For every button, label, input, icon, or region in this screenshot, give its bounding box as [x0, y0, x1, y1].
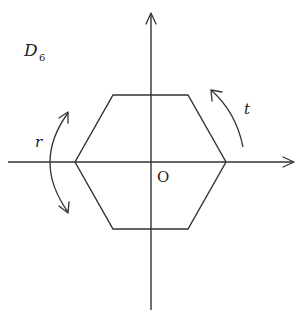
reflection-label: r — [35, 133, 43, 151]
origin-label: O — [157, 168, 169, 186]
rotation-arc — [211, 90, 243, 147]
group-label: D — [23, 40, 38, 60]
group-label-subscript: 6 — [39, 52, 45, 63]
reflection-arrowhead-top-icon — [59, 112, 68, 123]
reflection-arrowhead-bottom-icon — [59, 202, 69, 213]
d6-symmetry-diagram: D 6 O r t — [0, 0, 298, 313]
rotation-label: t — [244, 100, 251, 118]
